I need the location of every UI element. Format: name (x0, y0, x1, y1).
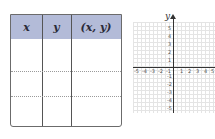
y-tick: 5 (168, 26, 171, 31)
x-tick: -3 (150, 69, 155, 74)
x-tick: 5 (211, 69, 214, 74)
header-x: x (11, 15, 42, 39)
y-axis (173, 16, 174, 113)
y-tick: -2 (167, 82, 172, 87)
y-tick: 2 (168, 50, 171, 55)
x-tick: -5 (134, 69, 139, 74)
x-tick: 1 (180, 69, 183, 74)
table-row[interactable] (11, 72, 121, 96)
xy-table: x y (x, y) (10, 14, 122, 127)
y-tick: 1 (168, 58, 171, 63)
x-tick: 4 (204, 69, 207, 74)
x-tick: -2 (158, 69, 163, 74)
y-axis-arrow-icon (170, 14, 176, 19)
y-axis-label: y (165, 11, 170, 21)
y-tick: -3 (167, 90, 172, 95)
y-tick: 3 (168, 42, 171, 47)
x-tick: -4 (142, 69, 147, 74)
x-tick: 3 (196, 69, 199, 74)
y-tick: -4 (167, 98, 172, 103)
coordinate-grid: y -5 -4 -3 -2 -1 1 2 3 4 5 5 4 3 2 1 -1 … (133, 22, 215, 113)
header-y: y (42, 15, 71, 39)
table-row[interactable] (11, 97, 121, 127)
header-xy: (x, y) (71, 15, 121, 39)
table-row[interactable] (11, 40, 121, 71)
y-tick: -5 (167, 106, 172, 111)
x-tick: 2 (188, 69, 191, 74)
table-header: x y (x, y) (11, 15, 121, 39)
y-tick: -1 (167, 74, 172, 79)
y-tick: 4 (168, 34, 171, 39)
